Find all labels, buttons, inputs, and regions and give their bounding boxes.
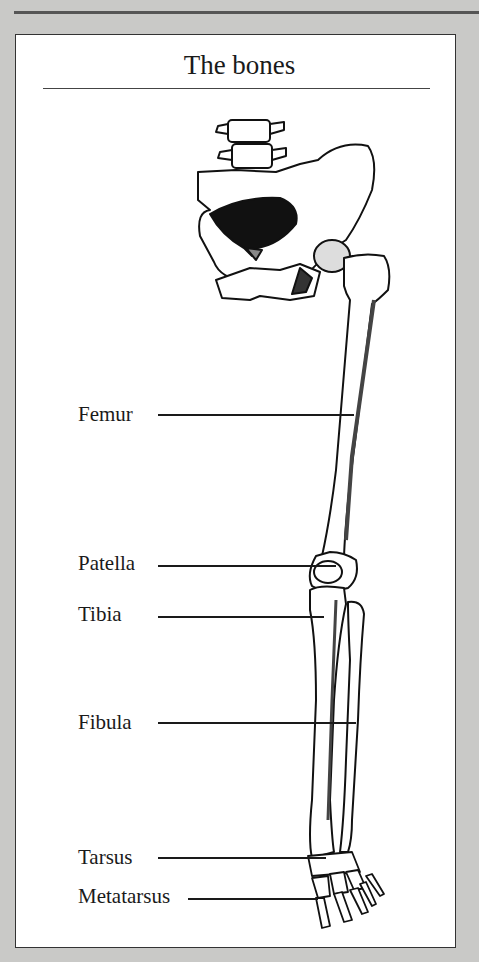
leg-skeleton-illustration: [0, 0, 479, 962]
label-patella: Patella: [78, 553, 135, 574]
vertebrae-icon: [216, 120, 286, 168]
leader-line-fibula: [158, 722, 356, 724]
leader-line-tarsus: [158, 857, 326, 859]
label-femur: Femur: [78, 404, 133, 425]
leader-line-metatarsus: [188, 898, 318, 900]
label-tarsus: Tarsus: [78, 847, 133, 868]
leader-line-patella: [158, 565, 336, 567]
fibula-bone-icon: [340, 602, 364, 852]
leader-line-femur: [158, 414, 354, 416]
label-metatarsus: Metatarsus: [78, 886, 170, 907]
label-fibula: Fibula: [78, 712, 132, 733]
foot-bones-icon: [308, 852, 384, 928]
leader-line-tibia: [158, 616, 324, 618]
label-tibia: Tibia: [78, 604, 122, 625]
